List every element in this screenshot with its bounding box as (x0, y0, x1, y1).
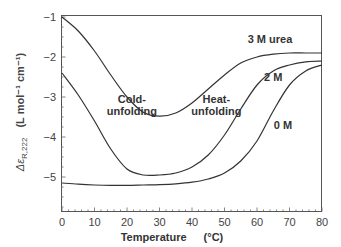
annotation-label: unfolding (107, 105, 157, 117)
x-tick-label: 20 (121, 216, 133, 228)
x-tick-label: 40 (186, 216, 198, 228)
y-tick-label: −4 (43, 131, 56, 143)
annotation-label: Heat- (203, 93, 231, 105)
x-tick-label: 0 (59, 216, 65, 228)
annotation-label: 0 M (274, 119, 292, 131)
y-axis-label: ΔεR,222(L mol⁻¹ cm⁻¹) (14, 53, 29, 173)
svg-text:ΔεR,222(L mol⁻¹ cm⁻¹): ΔεR,222(L mol⁻¹ cm⁻¹) (14, 53, 29, 173)
y-axis-ticks: −1−2−3−4−5 (43, 11, 65, 207)
folding-chart: 01020304050607080 −1−2−3−4−5 3 M urea2 M… (0, 0, 341, 247)
annotation-label: 3 M urea (248, 33, 294, 45)
y-tick-label: −1 (43, 11, 56, 23)
x-axis-label: Temperature (°C) (121, 231, 224, 243)
annotation-label: unfolding (191, 105, 241, 117)
x-tick-label: 70 (283, 216, 295, 228)
y-tick-label: −3 (43, 91, 56, 103)
x-tick-label: 10 (88, 216, 100, 228)
x-tick-label: 60 (251, 216, 263, 228)
annotation-label: 2 M (264, 71, 282, 83)
y-tick-label: −2 (43, 51, 56, 63)
x-tick-label: 50 (218, 216, 230, 228)
annotation-label: Cold- (118, 93, 146, 105)
y-tick-label: −5 (43, 171, 56, 183)
annotations: 3 M urea2 M0 MCold-unfoldingHeat-unfoldi… (107, 33, 293, 131)
x-axis-ticks: 01020304050607080 (59, 208, 328, 229)
x-tick-label: 80 (316, 216, 328, 228)
x-tick-label: 30 (153, 216, 165, 228)
